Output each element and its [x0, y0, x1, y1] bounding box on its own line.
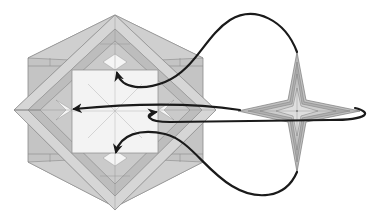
star-unit — [238, 52, 360, 172]
base-model — [14, 15, 216, 210]
origami-diagram — [0, 0, 385, 217]
